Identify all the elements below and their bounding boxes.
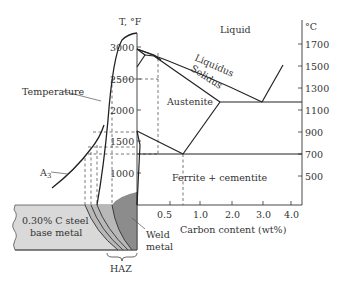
left-tick: 3000 — [110, 42, 134, 53]
weld-metal-label-1: Weld — [146, 229, 170, 240]
left-axis-title: T, °F — [119, 16, 142, 27]
right-tick: 900 — [305, 127, 323, 138]
right-tick: 1500 — [305, 61, 329, 72]
haz-brace-icon — [107, 253, 137, 261]
right-tick: 1100 — [305, 105, 329, 116]
bottom-tick: 3.0 — [256, 209, 271, 220]
left-tick: 2000 — [110, 105, 134, 116]
bottom-axis: 0.5 1.0 2.0 3.0 4.0 Carbon content (wt%) — [157, 201, 299, 235]
bottom-axis-title: Carbon content (wt%) — [180, 224, 286, 235]
left-tick: 1000 — [110, 168, 134, 179]
temperature-label: Temperature — [22, 86, 85, 97]
bottom-tick: 2.0 — [225, 209, 240, 220]
base-metal-label-2: base metal — [30, 227, 82, 238]
weld-phase-diagram: 0.30% C steel base metal Weld metal HAZ … — [0, 0, 340, 283]
ferrite-cementite-region-label: Ferrite + cementite — [172, 172, 268, 183]
right-tick: 1300 — [305, 83, 329, 94]
liquid-region-label: Liquid — [220, 24, 251, 35]
a3-label: A3 — [39, 167, 51, 180]
right-axis: °C 1700 1500 1300 1100 900 700 500 — [298, 21, 329, 182]
left-tick: 2500 — [110, 74, 134, 85]
bottom-tick: 0.5 — [157, 209, 172, 220]
right-tick: 700 — [305, 149, 323, 160]
austenite-region-label: Austenite — [166, 96, 213, 107]
haz-label: HAZ — [110, 263, 132, 274]
weld-cross-section: 0.30% C steel base metal Weld metal HAZ — [13, 192, 173, 274]
a3-curve: A3 — [39, 125, 104, 188]
right-axis-title: °C — [305, 21, 317, 32]
temperature-curve: Temperature — [22, 33, 137, 205]
left-tick: 1500 — [110, 136, 134, 147]
right-tick: 500 — [305, 171, 323, 182]
base-metal-label-1: 0.30% C steel — [22, 215, 88, 226]
right-tick: 1700 — [305, 39, 329, 50]
weld-metal-label-2: metal — [146, 241, 173, 252]
bottom-tick: 1.0 — [193, 209, 208, 220]
bottom-tick: 4.0 — [284, 209, 299, 220]
